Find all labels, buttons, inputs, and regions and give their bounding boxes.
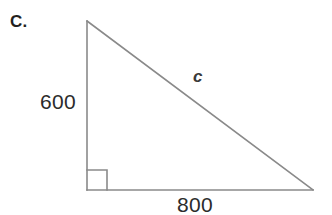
hypotenuse-label: c [193,68,202,85]
figure-canvas: C. 600 800 c [0,0,332,215]
item-label: C. [10,13,27,30]
vertical-leg-label: 600 [40,91,76,112]
hypotenuse-line [87,21,313,190]
horizontal-leg-label: 800 [177,194,213,215]
right-angle-marker-icon [87,170,107,190]
